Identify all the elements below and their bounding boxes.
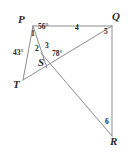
vertex-label-q: Q <box>112 11 120 22</box>
angle-label-43: 43° <box>13 49 24 57</box>
angle-label-1: 1 <box>31 30 35 38</box>
angle-label-56: 56° <box>38 23 49 31</box>
angle-label-2: 2 <box>35 45 39 53</box>
angle-label-5: 5 <box>104 28 108 36</box>
angle-label-4: 4 <box>75 24 79 32</box>
angle-label-78: 78° <box>52 50 63 58</box>
angle-label-3: 3 <box>45 42 49 50</box>
angle-label-6: 6 <box>105 118 109 126</box>
segment-SR <box>41 53 112 136</box>
segment-TQ <box>23 26 112 80</box>
vertex-label-s: S <box>38 57 44 68</box>
vertex-label-r: R <box>110 136 117 147</box>
geometry-figure: P Q T S R 1 56° 43° 2 3 78° 4 5 6 <box>0 0 129 156</box>
vertex-label-p: P <box>18 14 25 25</box>
vertex-label-t: T <box>13 79 20 90</box>
